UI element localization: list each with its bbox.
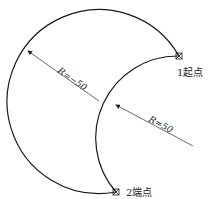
outer-radius-label: R=−50	[55, 65, 89, 93]
end-point-label: 2端点	[126, 186, 152, 198]
arc-diagram: R=−50 R=50 1起点 2端点	[0, 0, 210, 199]
inner-radius-label: R=50	[146, 113, 175, 135]
start-point-label: 1起点	[177, 67, 203, 78]
outer-arc	[7, 10, 179, 194]
